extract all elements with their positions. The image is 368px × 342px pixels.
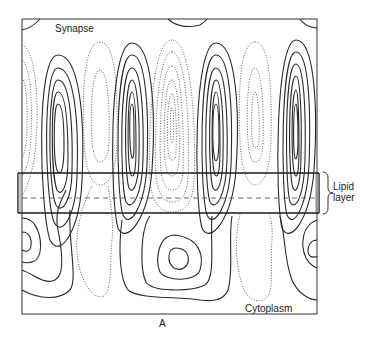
cytoplasm-label: Cytoplasm	[245, 303, 292, 314]
contour-corner-tl	[22, 19, 40, 30]
contour-group-col3-solid	[113, 43, 154, 233]
lipid-layer-brace-icon	[323, 172, 333, 214]
contour-top-mid	[168, 19, 207, 27]
contour-diagram: Synapse Cytoplasm A Lipid layer	[0, 0, 368, 342]
contour-plot	[0, 0, 368, 342]
lipid-label-line1: Lipid	[333, 181, 355, 192]
panel-label: A	[159, 318, 166, 329]
contour-group-col6-dotted	[239, 42, 271, 185]
plot-frame	[22, 19, 317, 314]
lipid-label-line2: layer	[333, 192, 355, 203]
contour-group-col7-solid	[278, 40, 316, 233]
lipid-edge-hatch-left	[18, 174, 22, 212]
contour-group-col4-dotted	[149, 40, 194, 212]
lipid-layer-label: Lipid layer	[333, 181, 355, 203]
contour-group-col1-solid	[42, 55, 83, 246]
lipid-edge-hatch-right	[315, 174, 319, 212]
contour-corner-tr	[300, 19, 317, 28]
contour-group-col5-solid	[197, 43, 238, 233]
synapse-label: Synapse	[55, 23, 94, 34]
